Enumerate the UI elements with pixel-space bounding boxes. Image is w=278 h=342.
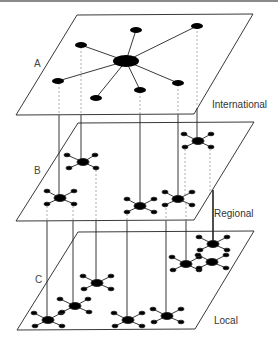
- layer-a-letter: A: [34, 58, 41, 69]
- layer-c-letter: C: [35, 274, 42, 285]
- layer-regional-label: Regional: [214, 208, 253, 219]
- plane-regional: [16, 122, 254, 221]
- multilevel-network-diagram: [0, 0, 278, 342]
- layer-international-label: International: [212, 99, 267, 110]
- layer-b-letter: B: [34, 165, 41, 176]
- layer-local-label: Local: [214, 315, 238, 326]
